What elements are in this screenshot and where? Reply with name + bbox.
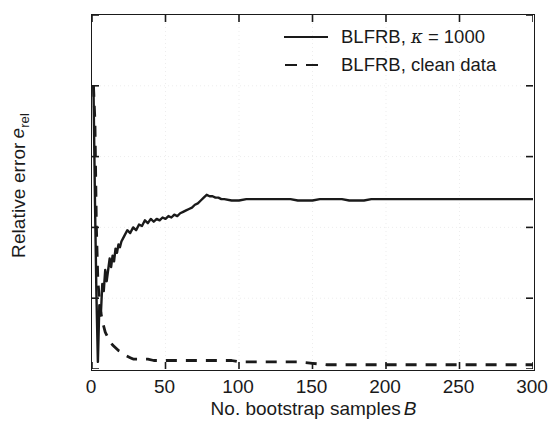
x-tick-label: 300	[487, 377, 550, 396]
y-axis-label: Relative errorerel	[4, 0, 34, 371]
legend-line-sample-solid	[284, 30, 328, 44]
kappa-symbol: κ	[411, 26, 423, 47]
x-axis-label: No. bootstrap samplesB	[91, 398, 536, 420]
series-line-1	[93, 86, 533, 362]
legend: BLFRB, κ = 1000 BLFRB, clean data	[284, 24, 496, 78]
y-axis-label-text: Relative error	[8, 143, 30, 258]
legend-entry-solid: BLFRB, κ = 1000	[284, 24, 496, 50]
legend-label-dashed: BLFRB, clean data	[341, 56, 496, 75]
x-tick-label: 100	[193, 377, 283, 396]
x-axis-label-symbol: B	[401, 398, 417, 419]
data-series	[93, 86, 533, 365]
chart-figure: Relative errorerel 00.050.10.150.20.25 0…	[0, 0, 550, 429]
x-tick-label: 50	[120, 377, 210, 396]
x-tick-label: 150	[267, 377, 357, 396]
y-axis-label-symbol: erel	[7, 113, 32, 142]
x-tick-label: 200	[340, 377, 430, 396]
x-axis-label-text: No. bootstrap samples	[211, 398, 401, 419]
legend-line-sample-dashed	[284, 58, 328, 72]
legend-entry-dashed: BLFRB, clean data	[284, 52, 496, 78]
legend-label-solid: BLFRB, κ = 1000	[341, 28, 485, 47]
x-tick-label: 0	[46, 377, 136, 396]
x-tick-label: 250	[414, 377, 504, 396]
series-line-2	[93, 86, 533, 365]
y-axis-label-subscript: rel	[16, 113, 31, 128]
